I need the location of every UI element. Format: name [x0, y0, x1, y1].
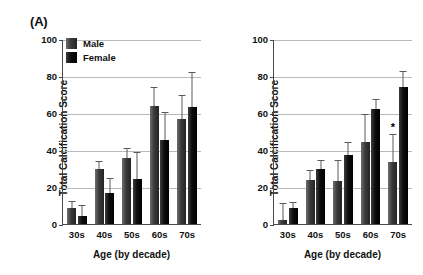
error-bar-cap [372, 99, 379, 100]
bar-group: 40s [91, 40, 118, 224]
error-bar [403, 72, 404, 87]
x-tick-label: 70s [179, 229, 195, 240]
bar-slot [95, 40, 104, 224]
bar [371, 109, 380, 224]
error-bar-cap [123, 148, 130, 149]
error-bar [337, 161, 338, 181]
error-bar [99, 162, 100, 168]
y-tick-label: 40 [46, 146, 57, 156]
bar-slot [160, 40, 169, 224]
bar-slot [188, 40, 197, 224]
bar-group: 60s [146, 40, 173, 224]
bar-slot [361, 40, 370, 224]
error-bar [192, 73, 193, 107]
bar-group: 30s [274, 40, 301, 224]
bar [133, 179, 142, 224]
figure-container: (A)Total Calcification ScoreAge (by deca… [0, 0, 423, 275]
bar-groups: 30s40s50s60s70s [63, 40, 201, 224]
bar-slot [316, 40, 325, 224]
legend-swatch-icon [66, 38, 77, 49]
error-bar [164, 113, 165, 140]
error-bar-cap [317, 160, 324, 161]
bar [67, 208, 76, 224]
y-tick-label: 60 [257, 109, 268, 119]
error-bar [71, 202, 72, 208]
x-tick-label: 70s [390, 229, 406, 240]
bar [316, 169, 325, 224]
x-tick-label: 50s [124, 229, 140, 240]
bar [160, 140, 169, 224]
y-tick-mark [59, 225, 63, 226]
bar-slot [333, 40, 342, 224]
y-tick-label: 0 [52, 220, 57, 230]
error-bar-cap [307, 170, 314, 171]
x-tick-label: 60s [363, 229, 379, 240]
error-bar-cap [79, 205, 86, 206]
error-bar [348, 143, 349, 155]
x-tick-label: 50s [335, 229, 351, 240]
error-bar-cap [362, 114, 369, 115]
bar-group: 50s [329, 40, 356, 224]
bar-slot [133, 40, 142, 224]
error-bar-cap [96, 161, 103, 162]
y-tick-label: 100 [252, 35, 268, 45]
error-bar-cap [279, 203, 286, 204]
significance-marker: * [391, 122, 395, 133]
bar-slot [306, 40, 315, 224]
x-axis-title: Age (by decade) [62, 249, 201, 260]
error-bar [181, 96, 182, 118]
y-tick-label: 60 [46, 109, 57, 119]
error-bar [126, 149, 127, 158]
error-bar-cap [290, 202, 297, 203]
bar-slot [122, 40, 131, 224]
y-tick-label: 100 [41, 35, 57, 45]
error-bar [137, 153, 138, 179]
bar [150, 106, 159, 224]
panel-label: (A) [30, 14, 47, 29]
x-tick-label: 60s [152, 229, 168, 240]
x-tick-label: 30s [280, 229, 296, 240]
error-bar-cap [389, 134, 396, 135]
y-tick-label: 80 [257, 72, 268, 82]
chart-panel-b: (B)Total Calcification ScoreAge (by deca… [211, 0, 422, 275]
bar-group: 50s [118, 40, 145, 224]
error-bar [365, 115, 366, 142]
bar [344, 155, 353, 224]
error-bar-cap [106, 178, 113, 179]
bar-slot [67, 40, 76, 224]
y-tick-label: 40 [257, 146, 268, 156]
error-bar-cap [161, 112, 168, 113]
bar-groups: 30s40s50s60s*70s [274, 40, 412, 224]
error-bar [293, 203, 294, 209]
bar [188, 107, 197, 224]
legend-swatch-icon [66, 52, 77, 63]
bar [399, 87, 408, 224]
bar-slot [278, 40, 287, 224]
bar-slot [105, 40, 114, 224]
error-bar [375, 100, 376, 109]
bar-slot [150, 40, 159, 224]
error-bar [310, 171, 311, 179]
chart-legend: MaleFemale [66, 38, 116, 63]
error-bar-cap [178, 95, 185, 96]
error-bar-cap [400, 71, 407, 72]
bar [333, 181, 342, 224]
plot-area: 02040608010030s40s50s60s70s [62, 40, 201, 225]
error-bar [154, 88, 155, 106]
x-tick-label: 40s [96, 229, 112, 240]
error-bar [82, 206, 83, 215]
error-bar-cap [345, 142, 352, 143]
bar-slot: * [388, 40, 397, 224]
bar-slot [344, 40, 353, 224]
legend-label: Female [83, 52, 116, 63]
error-bar [320, 161, 321, 169]
error-bar-cap [134, 152, 141, 153]
error-bar-cap [151, 87, 158, 88]
bar-group: 40s [302, 40, 329, 224]
error-bar [392, 135, 393, 162]
bar [122, 158, 131, 224]
bar [306, 180, 315, 224]
y-tick-label: 0 [263, 220, 268, 230]
bar-slot [399, 40, 408, 224]
bar-slot [289, 40, 298, 224]
